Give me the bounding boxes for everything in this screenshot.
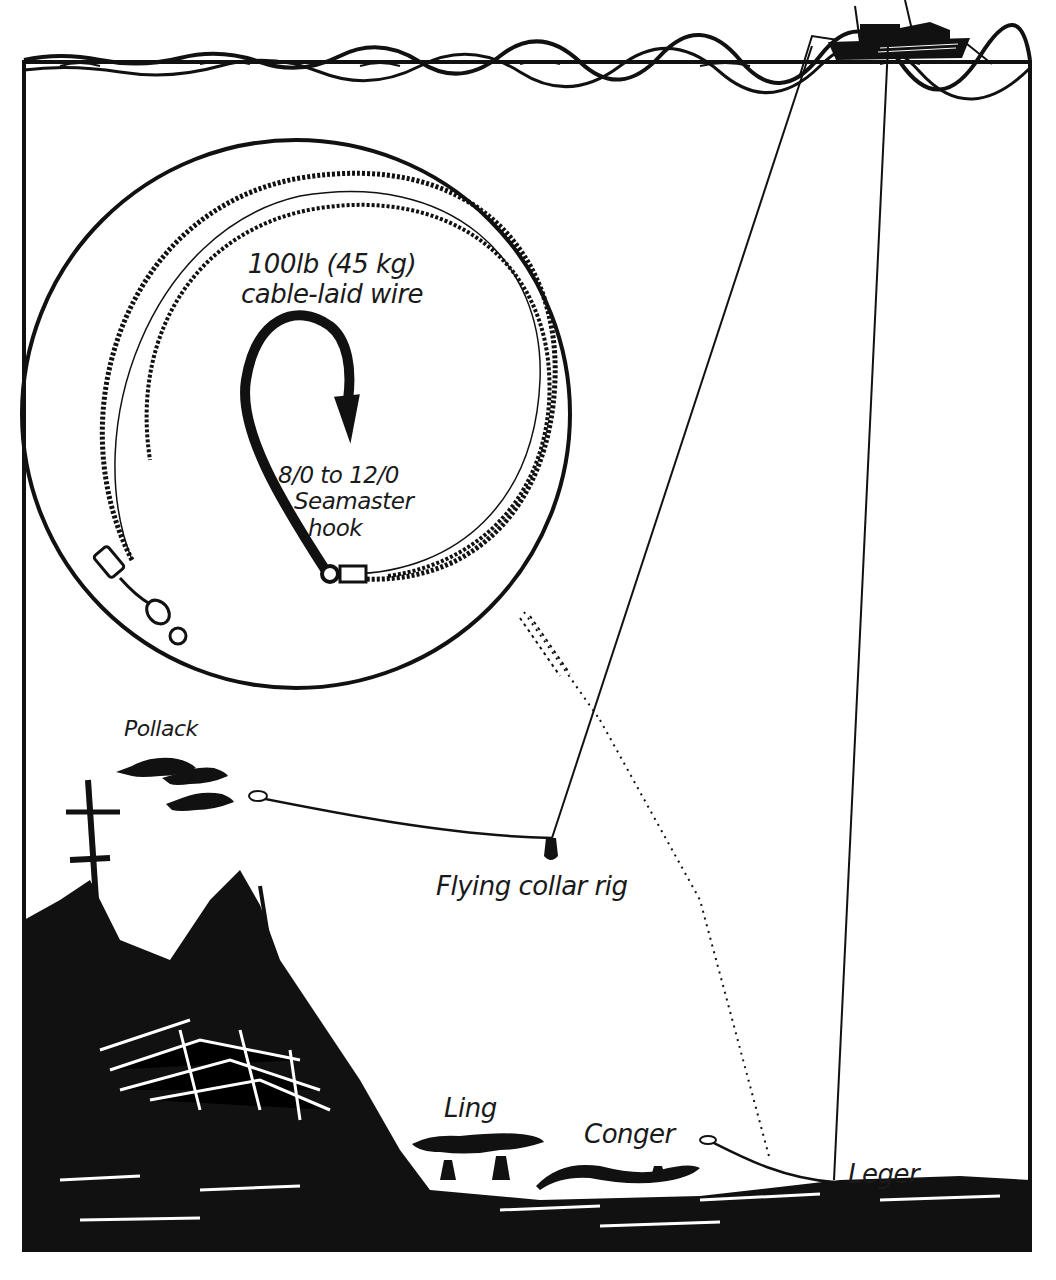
wire-label: 100lb (45 kg) cable-laid wire xyxy=(232,250,432,310)
hook-label-line1: 8/0 to 12/0 xyxy=(278,462,413,488)
pollack-label: Pollack xyxy=(124,716,198,741)
flying-collar-label: Flying collar rig xyxy=(436,872,628,902)
leger-trace xyxy=(708,1140,834,1182)
fishing-rig-diagram: 100lb (45 kg) cable-laid wire 8/0 to 12/… xyxy=(0,0,1056,1280)
seamaster-hook xyxy=(245,315,366,582)
wire-label-line2: cable-laid wire xyxy=(232,280,432,310)
swivel xyxy=(93,545,186,644)
diagram-artwork xyxy=(0,0,1056,1280)
leger-mainline xyxy=(834,46,888,1180)
leger-lure xyxy=(700,1136,716,1144)
flying-collar-lure xyxy=(249,791,267,801)
flying-collar-mainline xyxy=(552,46,812,838)
leger-lead xyxy=(828,1182,840,1201)
conger-eel xyxy=(536,1165,700,1190)
hook-label-line2: Seamaster xyxy=(278,488,413,514)
hook-label: 8/0 to 12/0 Seamaster hook xyxy=(278,462,413,541)
conger-label: Conger xyxy=(584,1120,675,1150)
hook-label-line3: hook xyxy=(278,515,413,541)
ling-label: Ling xyxy=(444,1094,497,1124)
leger-label: Leger xyxy=(848,1160,919,1190)
flying-collar-trace xyxy=(250,796,552,838)
wire-label-line1: 100lb (45 kg) xyxy=(232,250,432,280)
pollack-fish xyxy=(116,758,234,811)
flying-collar-lead xyxy=(544,838,558,860)
ling-fish xyxy=(412,1133,544,1153)
